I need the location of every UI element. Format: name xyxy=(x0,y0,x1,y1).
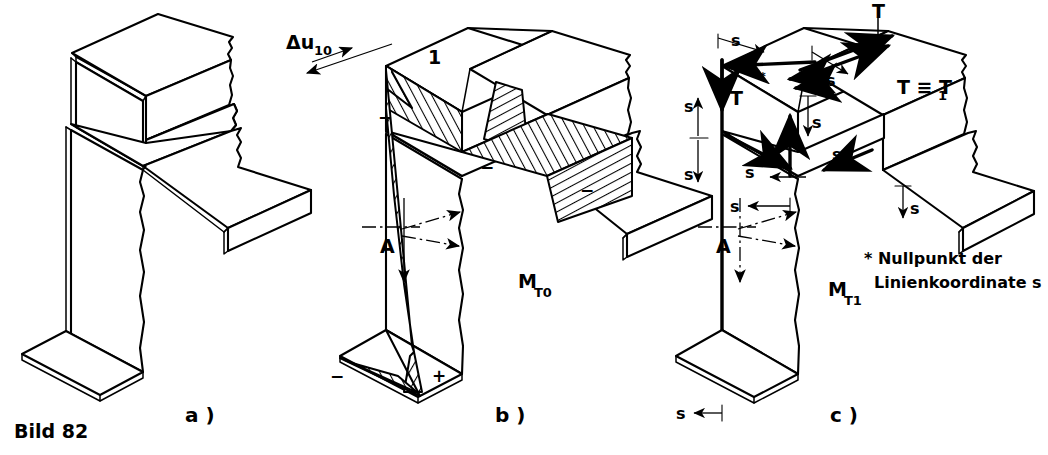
c-s-label-top-left: s xyxy=(731,31,741,50)
c-centroid-label: A xyxy=(716,235,731,257)
c-note-line1: * Nullpunkt der xyxy=(864,249,1002,268)
panel-c-label: c ) xyxy=(830,403,858,427)
b-centroid-label: A xyxy=(380,235,395,257)
c-origin-marker: * xyxy=(760,70,766,83)
b-sign-plus-bottom: + xyxy=(432,366,446,386)
panel-b-label: b ) xyxy=(495,403,525,427)
c-s-label-mid-far: s xyxy=(745,163,755,182)
b-sign-minus-mid: − xyxy=(480,157,494,177)
c-torque-top-label: T xyxy=(872,0,885,22)
c-s-label-right-end: s xyxy=(910,199,920,218)
figure-root: a ) Bild 82 xyxy=(0,0,1048,455)
b-moment-subscript: T0 xyxy=(534,285,552,300)
c-s-label-mid-right: s xyxy=(812,113,822,132)
warping-subscript: 10 xyxy=(314,43,332,58)
warping-label: Δu xyxy=(286,31,314,53)
c-s-label-web-lower: s xyxy=(684,165,694,184)
c-note-line2: Linienkoordinate s xyxy=(874,273,1042,292)
lower-web-face xyxy=(71,130,144,372)
b-sign-minus-right: − xyxy=(580,180,594,200)
c-torque-web-label: T xyxy=(730,87,743,109)
panel-a-label: a ) xyxy=(185,403,215,427)
c-s-label-bottom: s xyxy=(676,404,686,423)
b-sign-minus-bottom: − xyxy=(330,366,344,386)
c-s-label-top-right: s xyxy=(826,71,836,90)
c-s-label-mid-flange: s xyxy=(832,145,842,164)
c-torque-identity-sub: 1 xyxy=(938,88,947,103)
c-s-label-web-upper: s xyxy=(684,97,694,116)
c-moment-subscript: T1 xyxy=(844,293,862,308)
b-flange-index-1: 1 xyxy=(428,46,441,68)
c-s-label-lower-flange: s xyxy=(730,197,740,216)
b-sign-minus-top: − xyxy=(378,107,392,127)
figure-caption: Bild 82 xyxy=(14,420,88,442)
